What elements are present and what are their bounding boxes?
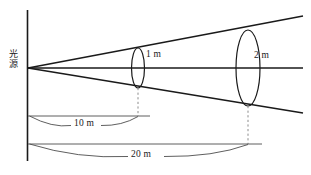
far-beam-distance-label: 20 m [131,150,151,160]
lower-ray-line [28,68,303,113]
dimension-10m-arc-right [101,117,138,126]
light-source-label-char-2: 源 [6,60,20,70]
dimension-10m-arc-left [30,116,72,126]
light-source-diagram: 光 源 1 m 2 m 10 m 20 m [0,0,311,175]
far-beam-diameter-label: 2 m [254,51,269,61]
dimension-20m-arc-left [30,144,129,157]
dimension-20m-arc-right [164,145,248,157]
light-source-label: 光 源 [6,50,20,69]
diagram-canvas [0,0,311,175]
near-beam-distance-label: 10 m [74,119,94,129]
near-beam-diameter-label: 1 m [146,50,161,60]
